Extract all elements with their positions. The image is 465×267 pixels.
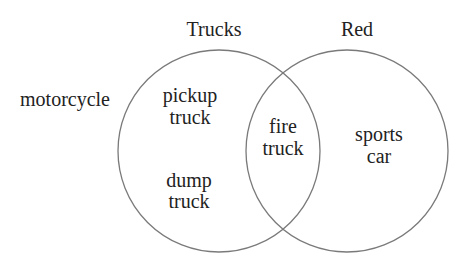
trucks-item-dump-line2: truck: [168, 190, 209, 212]
red-item-line1: sports: [355, 123, 403, 146]
trucks-set-label: Trucks: [187, 18, 242, 40]
trucks-item-pickup-line1: pickup: [163, 84, 217, 107]
intersection-item-line1: fire: [269, 115, 297, 137]
intersection-item-line2: truck: [262, 137, 303, 159]
outside-item-motorcycle: motorcycle: [20, 88, 110, 111]
venn-diagram: Trucks Red motorcycle pickup truck dump …: [0, 0, 465, 267]
red-item-line2: car: [367, 145, 392, 167]
trucks-item-pickup-line2: truck: [169, 106, 210, 128]
red-set-label: Red: [341, 18, 373, 40]
trucks-item-dump-line1: dump: [166, 169, 212, 192]
venn-canvas: Trucks Red motorcycle pickup truck dump …: [0, 0, 465, 267]
